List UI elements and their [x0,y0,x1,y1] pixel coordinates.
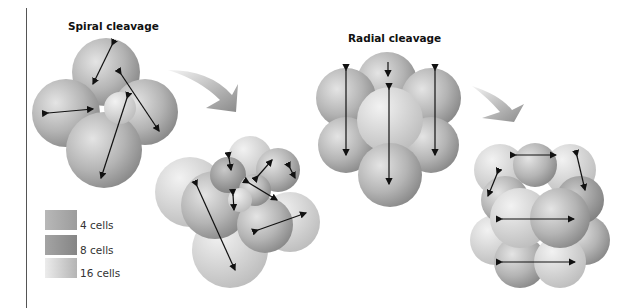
radial-16-cell-embryo [470,143,610,288]
spiral-4-cell-embryo [32,38,178,188]
spiral-16-cell-embryo [155,136,320,288]
legend-swatch [45,235,77,255]
legend-swatch [45,210,77,230]
transition-arrow-icon [472,86,524,122]
transition-arrow-icon [168,70,238,112]
legend-label: 16 cells [80,267,120,279]
radial-4-cell-embryo [316,52,461,207]
legend-item-16-cells: 16 cells [45,258,120,278]
legend-label: 4 cells [80,219,114,231]
legend-label: 8 cells [80,244,114,256]
legend-item-8-cells: 8 cells [45,235,114,255]
legend-swatch [45,258,77,278]
legend-item-4-cells: 4 cells [45,210,114,230]
